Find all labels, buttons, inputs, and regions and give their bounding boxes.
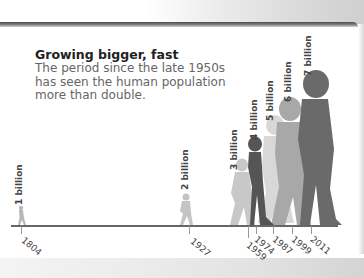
leader-1987 — [273, 226, 274, 234]
value-label-1927: 2 billion — [180, 149, 190, 190]
value-label-1999: 6 billion — [283, 61, 293, 102]
value-label-2011: 7 billion — [303, 35, 313, 76]
leader-1974 — [256, 226, 257, 234]
leader-1999 — [292, 226, 293, 234]
value-label-1987: 5 billion — [265, 80, 275, 121]
figure-2011 — [298, 70, 342, 225]
leader-1959 — [248, 226, 249, 238]
figure-1804 — [18, 206, 26, 225]
leader-2011 — [311, 226, 312, 234]
leader-1804 — [21, 226, 22, 234]
value-label-1804: 1 billion — [14, 164, 24, 205]
leader-1927 — [189, 226, 190, 234]
value-label-1974: 4 billion — [249, 99, 259, 140]
timeline-axis — [11, 225, 338, 227]
value-label-1959: 3 billion — [229, 129, 239, 170]
figure-1927 — [180, 194, 193, 226]
